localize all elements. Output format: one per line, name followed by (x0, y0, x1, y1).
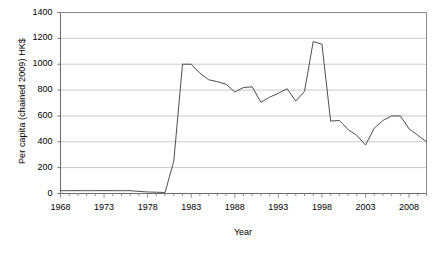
y-axis-tick-label: 1200 (13, 33, 53, 42)
y-axis-tick-label: 600 (13, 111, 53, 120)
x-axis-tick-label: 2008 (389, 203, 429, 212)
x-axis-tick-label: 1998 (302, 203, 342, 212)
y-axis-tick-label: 800 (13, 85, 53, 94)
y-axis-tick-label: 0 (13, 189, 53, 198)
y-axis-tick-label: 200 (13, 163, 53, 172)
line-chart-plot (0, 0, 442, 253)
y-axis-tick-label: 1000 (13, 59, 53, 68)
x-axis-tick-label: 1968 (41, 203, 81, 212)
y-axis-tick-label: 1400 (13, 8, 53, 17)
x-axis-tick-label: 1988 (215, 203, 255, 212)
x-axis-tick-label: 1978 (128, 203, 168, 212)
chart-container: Per capita (chained 2009) HK$ Year 02004… (0, 0, 442, 253)
x-axis-tick-label: 2003 (346, 203, 386, 212)
x-axis-tick-label: 1973 (84, 203, 124, 212)
x-axis-title: Year (60, 227, 426, 237)
y-axis-tick-label: 400 (13, 137, 53, 146)
x-axis-tick-label: 1993 (258, 203, 298, 212)
x-axis-tick-label: 1983 (171, 203, 211, 212)
